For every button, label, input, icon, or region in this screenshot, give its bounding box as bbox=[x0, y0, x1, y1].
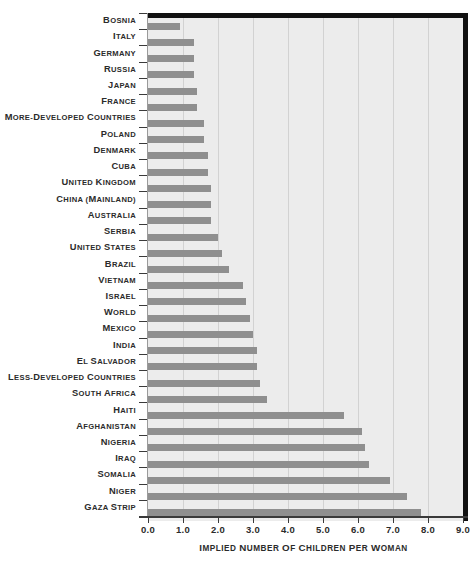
gridline bbox=[393, 18, 394, 521]
x-tick bbox=[393, 518, 394, 523]
x-tick-label: 2.0 bbox=[198, 524, 238, 535]
category-tick bbox=[139, 175, 147, 176]
category-tick bbox=[139, 451, 147, 452]
bar bbox=[148, 185, 211, 192]
category-tick bbox=[139, 159, 147, 160]
category-tick bbox=[139, 94, 147, 95]
category-tick bbox=[139, 305, 147, 306]
category-label: AUSTRALIA bbox=[0, 211, 136, 220]
category-tick bbox=[139, 500, 147, 501]
bar bbox=[148, 23, 180, 30]
bar bbox=[148, 380, 260, 387]
bar bbox=[148, 88, 197, 95]
bar bbox=[148, 152, 208, 159]
x-tick-label: 9.0 bbox=[443, 524, 474, 535]
category-label: NIGERIA bbox=[0, 438, 136, 447]
category-label: ISRAEL bbox=[0, 292, 136, 301]
category-tick bbox=[139, 321, 147, 322]
category-tick bbox=[139, 402, 147, 403]
category-label: GAZA STRIP bbox=[0, 503, 136, 512]
category-label: AFGHANISTAN bbox=[0, 422, 136, 431]
category-label: JAPAN bbox=[0, 81, 136, 90]
x-axis-title: IMPLIED NUMBER OF CHILDREN PER WOMAN bbox=[139, 542, 468, 553]
bar bbox=[148, 39, 194, 46]
gridline bbox=[428, 18, 429, 521]
category-label: SOUTH AFRICA bbox=[0, 389, 136, 398]
category-tick bbox=[139, 256, 147, 257]
category-label: WORLD bbox=[0, 308, 136, 317]
bar bbox=[148, 315, 250, 322]
category-tick bbox=[139, 127, 147, 128]
category-label: RUSSIA bbox=[0, 65, 136, 74]
category-tick bbox=[139, 240, 147, 241]
category-label: UNITED STATES bbox=[0, 243, 136, 252]
category-label: EL SALVADOR bbox=[0, 357, 136, 366]
category-label: UNITED KINGDOM bbox=[0, 178, 136, 187]
x-tick-label: 6.0 bbox=[338, 524, 378, 535]
bar bbox=[148, 266, 229, 273]
category-label: POLAND bbox=[0, 130, 136, 139]
category-tick bbox=[139, 62, 147, 63]
category-label: MEXICO bbox=[0, 324, 136, 333]
x-tick bbox=[288, 518, 289, 523]
bar bbox=[148, 412, 344, 419]
category-tick bbox=[139, 435, 147, 436]
category-tick bbox=[139, 289, 147, 290]
category-label: BOSNIA bbox=[0, 16, 136, 25]
x-tick bbox=[323, 518, 324, 523]
x-tick-label: 5.0 bbox=[303, 524, 343, 535]
x-tick-label: 8.0 bbox=[408, 524, 448, 535]
category-label: LESS-DEVELOPED COUNTRIES bbox=[0, 373, 136, 382]
plot-inner bbox=[148, 18, 463, 521]
bar bbox=[148, 396, 267, 403]
bar bbox=[148, 493, 407, 500]
category-label: DENMARK bbox=[0, 146, 136, 155]
category-tick bbox=[139, 208, 147, 209]
category-label: MORE-DEVELOPED COUNTRIES bbox=[0, 113, 136, 122]
bar bbox=[148, 331, 253, 338]
bar bbox=[148, 136, 204, 143]
category-label: BRAZIL bbox=[0, 260, 136, 269]
category-label: FRANCE bbox=[0, 97, 136, 106]
category-label: SERBIA bbox=[0, 227, 136, 236]
category-label: CHINA (MAINLAND) bbox=[0, 195, 136, 204]
category-tick bbox=[139, 370, 147, 371]
category-tick bbox=[139, 13, 147, 14]
category-label: NIGER bbox=[0, 487, 136, 496]
category-tick bbox=[139, 78, 147, 79]
x-axis-tick-labels: 0.01.02.03.04.05.06.07.08.09.0 bbox=[0, 524, 474, 536]
bar bbox=[148, 217, 211, 224]
x-tick bbox=[253, 518, 254, 523]
category-tick bbox=[139, 191, 147, 192]
bar bbox=[148, 169, 208, 176]
category-tick bbox=[139, 484, 147, 485]
category-tick bbox=[139, 338, 147, 339]
bar bbox=[148, 250, 222, 257]
x-tick bbox=[148, 518, 149, 523]
x-tick-label: 0.0 bbox=[128, 524, 168, 535]
bar-chart: BOSNIAITALYGERMANYRUSSIAJAPANFRANCEMORE-… bbox=[0, 0, 474, 563]
category-label: VIETNAM bbox=[0, 276, 136, 285]
bar bbox=[148, 477, 390, 484]
category-label: HAITI bbox=[0, 406, 136, 415]
category-tick bbox=[139, 419, 147, 420]
category-tick bbox=[139, 29, 147, 30]
x-tick-label: 7.0 bbox=[373, 524, 413, 535]
x-tick-label: 3.0 bbox=[233, 524, 273, 535]
bar bbox=[148, 363, 257, 370]
category-tick bbox=[139, 110, 147, 111]
bar bbox=[148, 234, 218, 241]
x-tick-label: 4.0 bbox=[268, 524, 308, 535]
x-tick bbox=[428, 518, 429, 523]
category-label: INDIA bbox=[0, 341, 136, 350]
x-tick-label: 1.0 bbox=[163, 524, 203, 535]
category-axis-labels: BOSNIAITALYGERMANYRUSSIAJAPANFRANCEMORE-… bbox=[0, 13, 136, 516]
bar bbox=[148, 71, 194, 78]
category-tick bbox=[139, 354, 147, 355]
x-tick bbox=[463, 518, 464, 523]
category-label: ITALY bbox=[0, 32, 136, 41]
bar bbox=[148, 428, 362, 435]
x-tick bbox=[218, 518, 219, 523]
category-tick bbox=[139, 386, 147, 387]
bar bbox=[148, 298, 246, 305]
